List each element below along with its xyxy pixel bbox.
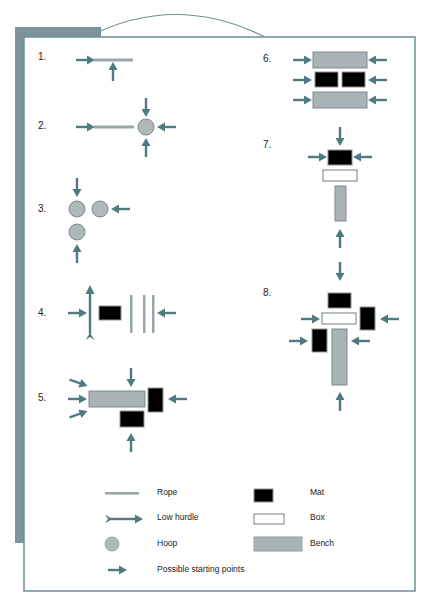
start-arrow-icon — [73, 244, 82, 263]
bench — [335, 186, 346, 221]
start-arrow-icon — [351, 337, 370, 346]
station-label-4: 4. — [38, 307, 46, 318]
mat — [120, 411, 144, 427]
rope — [152, 295, 155, 333]
mat — [328, 150, 352, 165]
bench — [313, 52, 367, 68]
start-arrow-icon — [368, 56, 387, 65]
rope — [94, 59, 133, 62]
legend-hoop-label: Hoop — [157, 538, 177, 548]
hoop — [92, 201, 108, 217]
bench — [313, 92, 367, 108]
mat — [148, 388, 163, 412]
station-5 — [68, 368, 187, 452]
start-arrow-icon — [157, 309, 176, 318]
legend-rope-label: Rope — [157, 487, 177, 497]
station-4 — [68, 285, 176, 340]
start-arrow-icon — [293, 96, 312, 105]
start-arrow-icon — [336, 392, 345, 411]
bench — [89, 391, 145, 407]
start-arrow-icon — [68, 375, 89, 390]
legend-hoop-icon — [105, 537, 119, 551]
mat — [342, 72, 365, 87]
circuit-diagram: 1. 2. 3. 4. 5. 6. 7. 8. Rope Low hurdle … — [0, 0, 430, 606]
start-arrow-icon — [308, 153, 327, 162]
start-arrow-icon — [157, 123, 176, 132]
box — [323, 170, 357, 181]
legend-mat-icon — [254, 489, 273, 502]
hoop — [69, 224, 85, 240]
start-arrow-icon — [68, 395, 87, 404]
mat — [360, 307, 375, 330]
start-arrow-icon — [168, 395, 187, 404]
legend — [105, 489, 302, 575]
start-arrow-icon — [73, 178, 82, 197]
mat — [328, 293, 351, 308]
start-arrow-icon — [68, 309, 87, 318]
rope — [143, 295, 146, 333]
rope — [94, 126, 134, 129]
diagram-canvas — [0, 0, 430, 606]
frame-tab — [15, 27, 101, 37]
station-label-5: 5. — [38, 392, 46, 403]
rope — [130, 295, 133, 333]
station-label-3: 3. — [38, 203, 46, 214]
start-arrow-icon — [76, 123, 95, 132]
station-6 — [293, 52, 387, 108]
legend-starting-points-label: Possible starting points — [157, 564, 244, 574]
legend-bench-icon — [254, 537, 302, 551]
legend-low-hurdle-icon — [105, 515, 143, 524]
station-8 — [289, 262, 399, 411]
station-label-7: 7. — [263, 139, 271, 150]
legend-rope-icon — [105, 492, 139, 495]
legend-box-label: Box — [310, 512, 325, 522]
mat — [312, 329, 327, 352]
station-3 — [69, 178, 130, 263]
legend-starting-point-icon — [108, 566, 127, 575]
start-arrow-icon — [127, 433, 136, 452]
bench — [332, 329, 347, 385]
station-label-8: 8. — [263, 287, 271, 298]
start-arrow-icon — [336, 262, 345, 281]
legend-bench-label: Bench — [310, 538, 334, 548]
start-arrow-icon — [76, 56, 95, 65]
frame-sidebar — [15, 27, 24, 543]
box — [322, 313, 356, 324]
start-arrow-icon — [127, 368, 136, 387]
start-arrow-icon — [293, 76, 312, 85]
start-arrow-icon — [336, 127, 345, 146]
hoop — [138, 119, 154, 135]
start-arrow-icon — [336, 229, 345, 248]
station-7 — [308, 127, 372, 248]
low-hurdle — [86, 285, 95, 340]
station-label-2: 2. — [38, 120, 46, 131]
hoop — [69, 201, 85, 217]
legend-low-hurdle-label: Low hurdle — [157, 512, 199, 522]
start-arrow-icon — [68, 407, 89, 422]
start-arrow-icon — [109, 62, 118, 81]
start-arrow-icon — [301, 315, 320, 324]
station-1 — [76, 56, 133, 82]
mat — [99, 306, 121, 320]
start-arrow-icon — [368, 96, 387, 105]
mat — [315, 72, 338, 87]
frame-arc — [88, 15, 265, 38]
start-arrow-icon — [142, 138, 151, 157]
start-arrow-icon — [293, 56, 312, 65]
station-label-1: 1. — [38, 51, 46, 62]
legend-box-icon — [254, 514, 284, 524]
start-arrow-icon — [111, 205, 130, 214]
start-arrow-icon — [289, 337, 308, 346]
station-label-6: 6. — [263, 53, 271, 64]
start-arrow-icon — [368, 76, 387, 85]
start-arrow-icon — [142, 98, 151, 117]
legend-mat-label: Mat — [310, 487, 324, 497]
station-2 — [76, 98, 176, 157]
start-arrow-icon — [353, 153, 372, 162]
start-arrow-icon — [380, 315, 399, 324]
